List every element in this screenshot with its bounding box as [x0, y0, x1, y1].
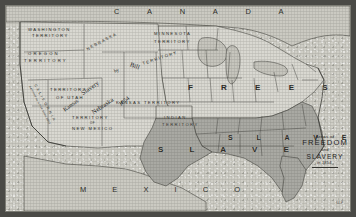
legend-underline — [312, 167, 338, 168]
label-washington-territory-line1: WASHINGTON — [28, 28, 71, 32]
label-free-states: F R E E S T A T E S — [188, 84, 350, 92]
label-oregon-territory-line1: OREGON — [28, 52, 60, 56]
label-minnesota-territory-line2: TERRITORY — [154, 40, 191, 44]
label-mexico: M E X I C O — [80, 186, 252, 194]
label-new-mexico-territory-line3: NEW MEXICO — [72, 127, 113, 131]
label-oregon-territory-line2: TERRITORY — [24, 59, 68, 63]
map-legend: Areas of FREEDOM and SLAVERY in 1854. — [300, 134, 350, 168]
label-indian-territory-line1: INDIAN — [164, 116, 187, 120]
label-new-mexico-territory-line2: OF — [90, 122, 95, 125]
legend-line-slavery: SLAVERY — [300, 153, 350, 161]
label-washington-territory-line2: TERRITORY — [32, 34, 69, 38]
map-paper: C A N A D A M E X I C O F R E E S T A T … — [6, 6, 350, 211]
label-indian-territory-line2: TERRITORY — [162, 123, 199, 127]
map-figure: C A N A D A M E X I C O F R E E S T A T … — [0, 0, 356, 217]
label-canada: C A N A D A — [114, 8, 297, 16]
label-slave-band: S L A V E — [158, 146, 301, 154]
label-utah-territory-line2: OF UTAH — [56, 96, 84, 100]
legend-line-year: in 1854. — [300, 161, 350, 165]
plate-number: 64-P — [336, 202, 343, 205]
label-minnesota-territory-line1: MINNESOTA — [154, 32, 191, 36]
label-new-mexico-territory-line1: TERRITORY — [72, 116, 109, 120]
